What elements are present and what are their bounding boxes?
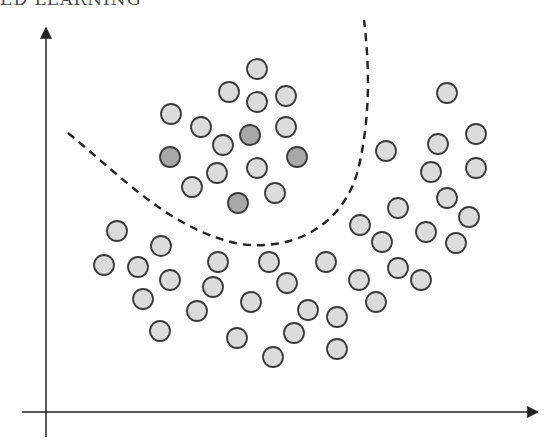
unlabeled-point (277, 273, 297, 293)
unlabeled-point (437, 188, 457, 208)
unlabeled-points (94, 59, 486, 367)
unlabeled-point (182, 177, 202, 197)
unlabeled-point (208, 252, 228, 272)
unlabeled-point (298, 300, 318, 320)
unlabeled-point (151, 236, 171, 256)
unlabeled-point (133, 289, 153, 309)
unlabeled-point (247, 59, 267, 79)
unlabeled-point (191, 117, 211, 137)
unlabeled-point (94, 255, 114, 275)
unlabeled-point (327, 339, 347, 359)
labeled-point (240, 125, 260, 145)
unlabeled-point (366, 292, 386, 312)
unlabeled-point (265, 183, 285, 203)
unlabeled-point (437, 83, 457, 103)
unlabeled-point (263, 347, 283, 367)
unlabeled-point (284, 323, 304, 343)
unlabeled-point (388, 198, 408, 218)
scatter-diagram (0, 0, 550, 448)
unlabeled-point (372, 232, 392, 252)
unlabeled-point (161, 104, 181, 124)
labeled-point (160, 147, 180, 167)
unlabeled-point (411, 270, 431, 290)
unlabeled-point (466, 158, 486, 178)
labeled-points (160, 125, 307, 213)
unlabeled-point (327, 307, 347, 327)
unlabeled-point (227, 328, 247, 348)
labeled-point (228, 193, 248, 213)
unlabeled-point (466, 124, 486, 144)
unlabeled-point (459, 207, 479, 227)
unlabeled-point (416, 222, 436, 242)
unlabeled-point (350, 215, 370, 235)
unlabeled-point (107, 221, 127, 241)
unlabeled-point (276, 117, 296, 137)
decision-boundary (68, 20, 368, 245)
unlabeled-point (213, 135, 233, 155)
unlabeled-point (421, 162, 441, 182)
unlabeled-point (316, 252, 336, 272)
unlabeled-point (446, 233, 466, 253)
unlabeled-point (150, 321, 170, 341)
unlabeled-point (247, 158, 267, 178)
unlabeled-point (203, 277, 223, 297)
unlabeled-point (247, 92, 267, 112)
unlabeled-point (428, 134, 448, 154)
labeled-point (287, 147, 307, 167)
unlabeled-point (160, 270, 180, 290)
unlabeled-point (241, 292, 261, 312)
unlabeled-point (128, 257, 148, 277)
unlabeled-point (259, 252, 279, 272)
unlabeled-point (376, 141, 396, 161)
unlabeled-point (187, 301, 207, 321)
unlabeled-point (276, 86, 296, 106)
unlabeled-point (388, 258, 408, 278)
unlabeled-point (349, 270, 369, 290)
unlabeled-point (207, 163, 227, 183)
unlabeled-point (219, 82, 239, 102)
